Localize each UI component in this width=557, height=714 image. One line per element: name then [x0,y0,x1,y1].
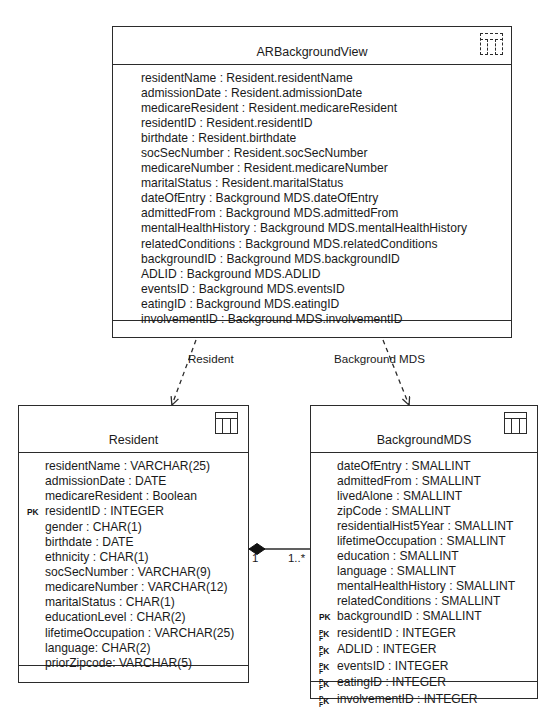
attribute-row: dateOfEntry : SMALLINT [317,459,533,474]
attribute-text: medicareResident : Resident.medicareResi… [141,101,397,116]
attribute-row: residentialHist5Year : SMALLINT [317,519,533,534]
attribute-text: eatingID : INTEGER [337,675,446,690]
view-table-icon [480,33,503,55]
attribute-text: residentName : VARCHAR(25) [45,459,210,474]
class-header-arbackgroundview: ARBackgroundView [113,27,511,65]
attribute-text: gender : CHAR(1) [45,520,142,535]
attribute-row: residentID : Resident.residentID [121,116,507,131]
attribute-row: gender : CHAR(1) [25,520,244,535]
attribute-text: admittedFrom : SMALLINT [337,474,481,489]
attribute-text: birthdate : Resident.birthdate [141,131,296,146]
attribute-text: residentName : Resident.residentName [141,71,353,86]
attribute-text: residentialHist5Year : SMALLINT [337,519,513,534]
attribute-row: admittedFrom : SMALLINT [317,474,533,489]
class-box-arbackgroundview[interactable]: ARBackgroundView residentName : Resident… [112,26,512,338]
class-name-resident: Resident [19,434,248,452]
attribute-row: language: CHAR(2) [25,641,244,656]
attribute-row: PFKeventsID : INTEGER [317,659,533,676]
attribute-text: medicareResident : Boolean [45,489,197,504]
primary-foreign-key-marker: PFK [317,676,337,692]
attribute-row: relatedConditions : Background MDS.relat… [121,237,507,252]
table-icon [215,412,238,434]
attribute-text: dateOfEntry : SMALLINT [337,459,471,474]
attribute-text: eventsID : Background MDS.eventsID [141,282,345,297]
dependency-arrow-resident [172,340,196,405]
primary-foreign-key-marker: PFK [317,660,337,676]
attribute-text: admissionDate : DATE [45,474,166,489]
attribute-row: admittedFrom : Background MDS.admittedFr… [121,206,507,221]
attribute-row: language : SMALLINT [317,564,533,579]
attribute-text: lifetimeOccupation : VARCHAR(25) [45,626,234,641]
attribute-text: medicareNumber : Resident.medicareNumber [141,161,388,176]
multiplicity-right: 1..* [288,552,305,564]
attribute-text: language: CHAR(2) [45,641,151,656]
attribute-row: residentName : VARCHAR(25) [25,459,244,474]
attribute-row: lifetimeOccupation : VARCHAR(25) [25,626,244,641]
class-box-backgroundmds[interactable]: BackgroundMDS dateOfEntry : SMALLINTadmi… [310,405,538,699]
class-box-resident[interactable]: Resident residentName : VARCHAR(25)admis… [18,405,249,683]
attribute-text: backgroundID : Background MDS.background… [141,252,400,267]
attribute-text: socSecNumber : VARCHAR(9) [45,565,211,580]
attribute-text: eventsID : INTEGER [337,659,449,674]
attribute-text: residentID : INTEGER [337,626,456,641]
attribute-row: zipCode : SMALLINT [317,504,533,519]
attribute-row: relatedConditions : SMALLINT [317,594,533,609]
attribute-row: birthdate : DATE [25,535,244,550]
attribute-row: PKresidentID : INTEGER [25,504,244,520]
attribute-row: admissionDate : DATE [25,474,244,489]
attribute-text: education : SMALLINT [337,549,459,564]
attribute-text: priorZipcode: VARCHAR(5) [45,656,192,671]
primary-foreign-key-marker: PFK [317,643,337,659]
primary-key-marker: PK [25,505,45,520]
dependency-arrow-background [383,340,409,405]
attribute-text: residentID : INTEGER [45,504,164,519]
attribute-text: zipCode : SMALLINT [337,504,451,519]
class-header-resident: Resident [19,406,248,453]
attribute-text: ethnicity : CHAR(1) [45,550,149,565]
attribute-row: birthdate : Resident.birthdate [121,131,507,146]
attribute-row: socSecNumber : VARCHAR(9) [25,565,244,580]
dependency-label-background-mds: Background MDS [334,352,425,365]
attribute-row: residentName : Resident.residentName [121,71,507,86]
attribute-row: mentalHealthHistory : SMALLINT [317,579,533,594]
attribute-text: residentID : Resident.residentID [141,116,312,131]
attribute-row: medicareResident : Resident.medicareResi… [121,101,507,116]
attribute-row: ADLID : Background MDS.ADLID [121,267,507,282]
attribute-row: backgroundID : Background MDS.background… [121,252,507,267]
attribute-text: relatedConditions : SMALLINT [337,594,500,609]
attribute-row: medicareNumber : Resident.medicareNumber [121,161,507,176]
class-name-arbackgroundview: ARBackgroundView [113,46,511,64]
class-name-backgroundmds: BackgroundMDS [311,434,537,452]
attribute-text: birthdate : DATE [45,535,134,550]
class-header-backgroundmds: BackgroundMDS [311,406,537,453]
primary-key-marker: PK [317,610,337,625]
attribute-text: livedAlone : SMALLINT [337,489,462,504]
attribute-text: maritalStatus : CHAR(1) [45,595,175,610]
dependency-label-resident: Resident [188,352,234,365]
attribute-row: educationLevel : CHAR(2) [25,610,244,625]
attribute-compartment-backgroundmds: dateOfEntry : SMALLINTadmittedFrom : SMA… [311,453,537,682]
attribute-row: socSecNumber : Resident.socSecNumber [121,146,507,161]
attribute-row: dateOfEntry : Background MDS.dateOfEntry [121,191,507,206]
attribute-row: medicareResident : Boolean [25,489,244,504]
attribute-row: mentalHealthHistory : Background MDS.men… [121,221,507,236]
attribute-text: educationLevel : CHAR(2) [45,610,186,625]
attribute-row: PFKADLID : INTEGER [317,642,533,659]
attribute-text: mentalHealthHistory : SMALLINT [337,579,515,594]
attribute-text: admissionDate : Resident.admissionDate [141,86,362,101]
attribute-text: relatedConditions : Background MDS.relat… [141,237,437,252]
attribute-text: socSecNumber : Resident.socSecNumber [141,146,368,161]
attribute-row: eatingID : Background MDS.eatingID [121,297,507,312]
attribute-text: language : SMALLINT [337,564,456,579]
attribute-row: lifetimeOccupation : SMALLINT [317,534,533,549]
attribute-row: medicareNumber : VARCHAR(12) [25,580,244,595]
attribute-row: education : SMALLINT [317,549,533,564]
attribute-text: ADLID : INTEGER [337,642,436,657]
attribute-text: dateOfEntry : Background MDS.dateOfEntry [141,191,378,206]
attribute-text: ADLID : Background MDS.ADLID [141,267,320,282]
attribute-row: livedAlone : SMALLINT [317,489,533,504]
attribute-row: eventsID : Background MDS.eventsID [121,282,507,297]
attribute-row: PKbackgroundID : SMALLINT [317,609,533,625]
diagram-canvas: ARBackgroundView residentName : Resident… [0,0,557,714]
multiplicity-left: 1 [252,552,258,564]
